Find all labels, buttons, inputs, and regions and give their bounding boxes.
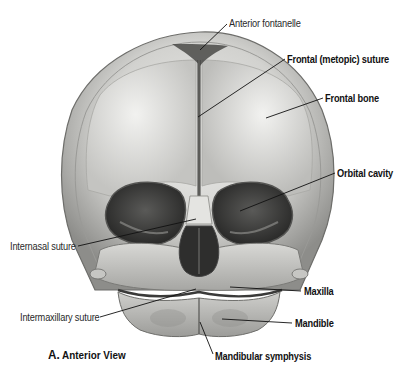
label-orbital-cavity: Orbital cavity <box>337 167 393 179</box>
caption-text: Anterior View <box>62 349 126 361</box>
label-intermaxillary-suture: Intermaxillary suture <box>20 311 100 323</box>
mandible-region <box>118 292 280 337</box>
label-maxilla: Maxilla <box>304 285 334 297</box>
figure-caption: A. Anterior View <box>48 347 126 362</box>
label-mandible: Mandible <box>295 317 334 329</box>
label-frontal-bone: Frontal bone <box>325 92 379 104</box>
caption-letter: A. <box>48 347 60 362</box>
label-frontal-metopic-suture: Frontal (metopic) suture <box>287 53 389 65</box>
fetal-skull-figure: Anterior fontanelle Frontal (metopic) su… <box>0 0 395 390</box>
label-mandibular-symphysis: Mandibular symphysis <box>215 350 311 362</box>
label-internasal-suture: Internasal suture <box>10 240 76 252</box>
label-anterior-fontanelle: Anterior fontanelle <box>229 17 301 29</box>
